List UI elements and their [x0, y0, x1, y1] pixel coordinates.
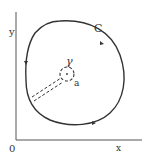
y-axis-label: y: [9, 27, 15, 37]
x-axis-label: x: [116, 144, 121, 153]
point-a: [66, 73, 68, 75]
arrow-icon: [100, 41, 104, 45]
curve-c: [26, 21, 124, 125]
point-a-label: a: [74, 79, 79, 88]
arrow-icon: [24, 61, 28, 65]
origin-label: 0: [9, 144, 15, 154]
curve-label: C: [94, 23, 102, 34]
cut-line-lower: [34, 82, 63, 101]
gamma-label: γ: [66, 56, 73, 67]
contour-diagram: y 0 x C γ a: [0, 0, 148, 160]
cut-line-upper: [32, 78, 61, 97]
